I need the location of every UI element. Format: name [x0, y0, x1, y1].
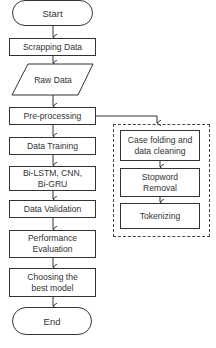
tokenizing-step: Tokenizing: [120, 203, 200, 229]
end-terminal: End: [12, 307, 92, 335]
preprocessing-step: Pre-processing: [9, 107, 96, 125]
case-folding-step: Case folding and data cleaning: [120, 130, 200, 161]
performance-evaluation-step: Performance Evaluation: [9, 230, 96, 258]
choosing-best-model-step: Choosing the best model: [9, 268, 96, 297]
start-terminal: Start: [12, 0, 93, 26]
scrapping-data-step: Scrapping Data: [9, 38, 96, 56]
models-step: Bi-LSTM, CNN, Bi-GRU: [9, 166, 96, 191]
data-training-step: Data Training: [9, 137, 96, 155]
stopword-removal-step: Stopword Removal: [120, 168, 200, 197]
data-validation-step: Data Validation: [9, 200, 96, 218]
raw-data-input: Raw Data: [30, 66, 76, 94]
